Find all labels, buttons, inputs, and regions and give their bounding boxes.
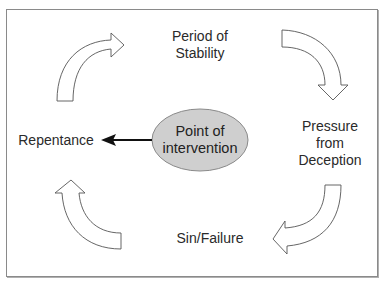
curved-arrow-up-right-icon xyxy=(57,33,124,101)
node-label-line: Sin/Failure xyxy=(177,230,244,246)
node-label-line: Period of xyxy=(150,28,250,45)
node-label-line: Stability xyxy=(150,45,250,62)
curved-arrow-down-left-icon xyxy=(273,185,341,254)
node-label-line: Repentance xyxy=(18,132,94,148)
node-label-line: from xyxy=(290,135,370,152)
node-repentance: Repentance xyxy=(12,132,100,149)
center-label-line: intervention xyxy=(155,140,245,157)
node-point-of-intervention: Point of intervention xyxy=(155,123,245,157)
node-sin-failure: Sin/Failure xyxy=(155,230,265,247)
curved-arrow-right-down-icon xyxy=(282,30,348,100)
intervention-arrow-icon xyxy=(101,134,152,146)
node-period-of-stability: Period of Stability xyxy=(150,28,250,62)
node-label-line: Deception xyxy=(290,152,370,169)
node-label-line: Pressure xyxy=(290,118,370,135)
node-pressure-from-deception: Pressure from Deception xyxy=(290,118,370,169)
center-label-line: Point of xyxy=(155,123,245,140)
curved-arrow-left-up-icon xyxy=(55,180,121,249)
